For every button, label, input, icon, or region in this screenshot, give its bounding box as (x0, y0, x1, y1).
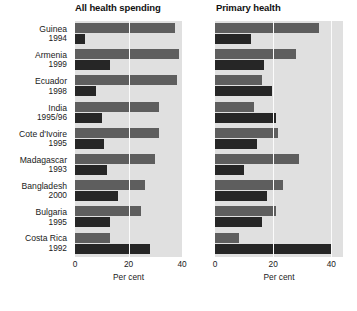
bar-richest (215, 102, 254, 112)
bar-row (215, 100, 343, 126)
bar-poorest (75, 60, 110, 70)
bar-poorest (75, 217, 110, 227)
plot-panel-all-health-spending (75, 21, 182, 257)
bar-richest (215, 154, 299, 164)
category-year-label: 1998 (49, 87, 67, 96)
bar-poorest (215, 60, 264, 70)
bar-richest (75, 154, 155, 164)
bar-row (215, 47, 343, 73)
bar-poorest (75, 139, 104, 149)
bar-row (215, 21, 343, 47)
bar-richest (75, 180, 145, 190)
x-tick-label: 40 (327, 259, 336, 269)
gridline (331, 21, 332, 257)
x-axis-label-left: Per cent (113, 272, 144, 282)
bar-richest (215, 128, 278, 138)
bar-richest (215, 233, 239, 243)
category-year-label: 1999 (49, 60, 67, 69)
bar-row (215, 73, 343, 99)
gridline (129, 21, 130, 257)
x-tick-label: 20 (269, 259, 278, 269)
bar-poorest (75, 86, 96, 96)
category-year-label: 2000 (49, 191, 67, 200)
bar-poorest (75, 113, 102, 123)
category-label-row: India1995/96 (0, 100, 71, 126)
bar-poorest (75, 34, 85, 44)
bar-poorest (215, 86, 272, 96)
x-axis-primary-health: Per cent 02040 (215, 257, 343, 287)
panel-title-all-health-spending: All health spending (75, 2, 161, 13)
bar-row (215, 231, 343, 257)
bar-richest (75, 206, 141, 216)
bar-poorest (75, 165, 107, 175)
category-label-row: Ecuador1998 (0, 73, 71, 99)
category-year-label: 1995/96 (37, 113, 67, 122)
bar-richest (215, 206, 276, 216)
x-tick-label: 40 (177, 259, 186, 269)
category-year-label: 1994 (49, 34, 67, 43)
bar-poorest (75, 244, 150, 254)
x-axis-all-health-spending: Per cent 02040 (75, 257, 182, 287)
category-year-label: 1995 (49, 139, 67, 148)
category-label-row: Guinea1994 (0, 21, 71, 47)
bar-poorest (75, 191, 118, 201)
x-tick-label: 20 (124, 259, 133, 269)
category-label-row: Cote d'Ivoire1995 (0, 126, 71, 152)
category-year-label: 1992 (49, 244, 67, 253)
category-year-label: 1993 (49, 165, 67, 174)
plot-panel-primary-health (215, 21, 343, 257)
bar-row (215, 126, 343, 152)
bar-richest (75, 75, 177, 85)
bar-poorest (215, 34, 251, 44)
x-axis-label-right: Per cent (264, 272, 295, 282)
bar-richest (75, 23, 175, 33)
bar-richest (75, 49, 179, 59)
bar-row (215, 204, 343, 230)
bar-richest (215, 49, 296, 59)
bar-poorest (215, 165, 244, 175)
gridline (273, 21, 274, 257)
bar-richest (75, 233, 110, 243)
bar-row (215, 152, 343, 178)
category-axis-labels: Guinea1994Armenia1999Ecuador1998India199… (0, 21, 71, 257)
bar-richest (75, 102, 159, 112)
category-label-row: Bulgaria1995 (0, 204, 71, 230)
category-label-row: Costa Rica1992 (0, 231, 71, 257)
bar-poorest (215, 139, 257, 149)
x-tick-label: 0 (73, 259, 78, 269)
bar-rows-primary-health (215, 21, 343, 257)
category-label-row: Madagascar1993 (0, 152, 71, 178)
panel-title-primary-health: Primary health (216, 2, 281, 13)
bar-poorest (215, 217, 262, 227)
bar-row (215, 178, 343, 204)
category-label-row: Armenia1999 (0, 47, 71, 73)
chart-figure: All health spending Primary health Guine… (0, 0, 357, 311)
x-tick-label: 0 (213, 259, 218, 269)
bar-poorest (215, 191, 267, 201)
category-label-row: Bangladesh2000 (0, 178, 71, 204)
bar-richest (215, 23, 319, 33)
bar-richest (215, 75, 262, 85)
bar-richest (75, 128, 159, 138)
category-year-label: 1995 (49, 218, 67, 227)
bar-poorest (215, 113, 276, 123)
